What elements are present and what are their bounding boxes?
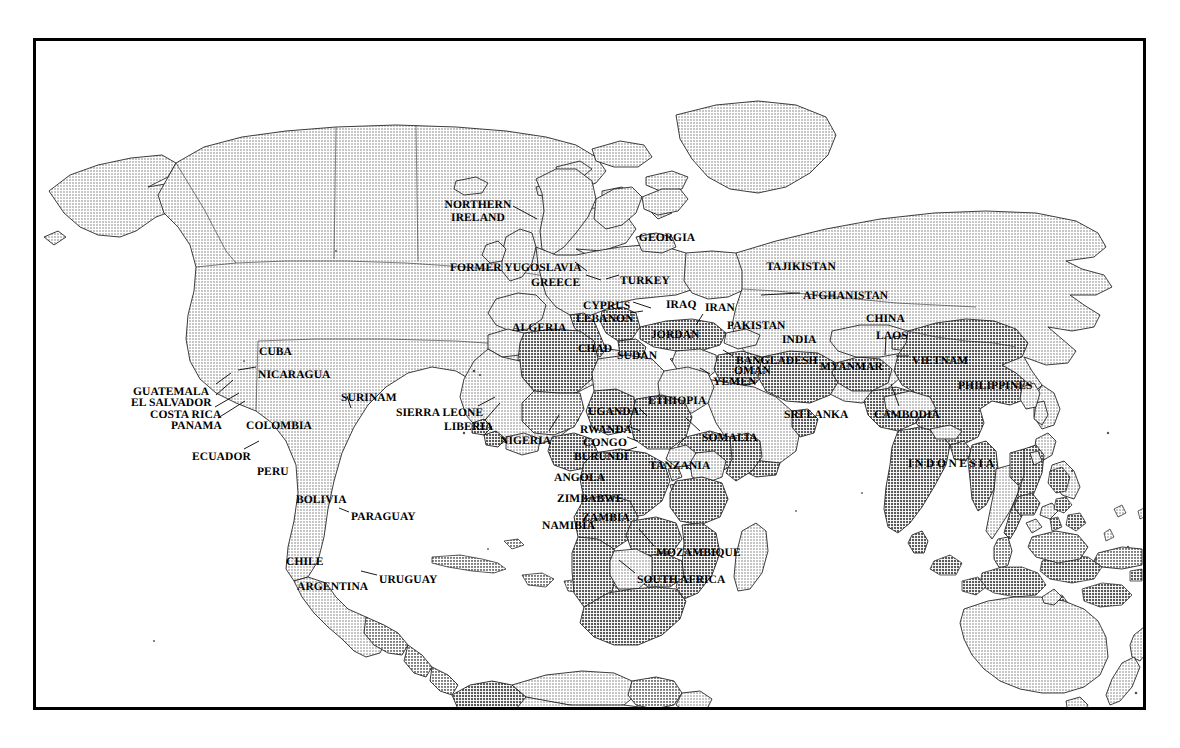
map-label-burundi: BURUNDI — [574, 451, 628, 463]
page-root: .ld { fill:url(#halftoneLight); stroke:#… — [0, 0, 1180, 748]
map-label-south-africa: SOUTH AFRICA — [637, 574, 725, 586]
map-label-rwanda: RWANDA — [580, 424, 632, 436]
map-label-pakistan: PAKISTAN — [727, 320, 786, 332]
map-label-lebanon: LEBANON — [576, 313, 634, 325]
map-label-laos: LAOS — [876, 330, 908, 342]
map-label-angola: ANGOLA — [554, 472, 605, 484]
map-label-uganda: UGANDA — [588, 406, 639, 418]
map-label-nicaragua: NICARAGUA — [258, 369, 330, 381]
map-label-iran: IRAN — [705, 302, 735, 314]
map-label-cambodia: CAMBODIA — [874, 409, 940, 421]
map-label-tajikistan: TAJIKISTAN — [766, 261, 836, 273]
world-map-graphic: .ld { fill:url(#halftoneLight); stroke:#… — [36, 41, 1143, 707]
map-label-sri-lanka: SRI LANKA — [784, 409, 848, 421]
map-label-chad: CHAD — [578, 343, 612, 355]
map-label-congo: CONGO — [583, 437, 627, 449]
map-label-zimbabwe: ZIMBABWE — [557, 493, 624, 505]
map-label-el-salvador: EL SALVADOR — [131, 397, 212, 409]
map-label-cyprus: CYPRUS — [583, 300, 630, 312]
map-label-turkey: TURKEY — [620, 275, 670, 287]
map-label-bolivia: BOLIVIA — [296, 494, 347, 506]
map-label-liberia: LIBERIA — [444, 421, 493, 433]
map-label-algeria: ALGERIA — [512, 322, 566, 334]
map-label-ecuador: ECUADOR — [192, 451, 251, 463]
map-label-tanzania: TANZANIA — [649, 460, 710, 472]
map-label-panama: PANAMA — [171, 420, 222, 432]
map-label-indonesia: INDONESIA — [908, 458, 997, 470]
map-label-india: INDIA — [782, 334, 816, 346]
map-label-sudan: SUDAN — [617, 350, 657, 362]
map-label-former-yugoslavia: FORMER YUGOSLAVIA — [450, 262, 582, 274]
map-label-colombia: COLOMBIA — [246, 420, 312, 432]
map-label-somalia: SOMALIA — [702, 432, 758, 444]
map-label-mozambique: MOZAMBIQUE — [656, 547, 741, 559]
map-label-greece: GREECE — [531, 277, 580, 289]
map-label-uruguay: URUGUAY — [379, 574, 437, 586]
map-label-iraq: IRAQ — [666, 299, 696, 311]
map-label-afghanistan: AFGHANISTAN — [803, 290, 888, 302]
map-label-chile: CHILE — [286, 556, 324, 568]
map-label-paraguay: PARAGUAY — [351, 511, 416, 523]
map-label-myanmar: MYANMAR — [820, 361, 883, 373]
map-label-jordan: JORDAN — [651, 329, 700, 341]
map-label-cuba: CUBA — [259, 346, 292, 358]
map-label-china: CHINA — [866, 313, 905, 325]
map-label-surinam: SURINAM — [341, 392, 397, 404]
map-label-argentina: ARGENTINA — [297, 581, 368, 593]
map-frame: .ld { fill:url(#halftoneLight); stroke:#… — [33, 38, 1146, 710]
map-label-peru: PERU — [257, 466, 289, 478]
map-label-ethiopia: ETHIOPIA — [648, 395, 706, 407]
map-label-philippines: PHILIPPINES — [958, 380, 1033, 392]
map-label-nigeria: NIGERIA — [500, 435, 551, 447]
map-label-yemen: YEMEN — [713, 376, 756, 388]
map-label-northern-ireland: NORTHERNIRELAND — [445, 199, 512, 225]
map-label-sierra-leone: SIERRA LEONE — [396, 407, 483, 419]
map-label-georgia: GEORGIA — [639, 232, 695, 244]
map-canvas: .ld { fill:url(#halftoneLight); stroke:#… — [36, 41, 1143, 707]
map-label-namibia: NAMIBIA — [542, 520, 595, 532]
map-label-vietnam: VIETNAM — [912, 355, 968, 367]
